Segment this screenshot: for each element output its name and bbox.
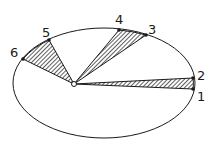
label-6: 6 <box>10 45 18 60</box>
label-2: 2 <box>197 68 205 83</box>
point-1 <box>191 87 195 91</box>
label-3: 3 <box>148 22 156 37</box>
point-2 <box>191 76 195 80</box>
label-4: 4 <box>115 12 123 27</box>
sector-5-6 <box>23 40 74 84</box>
focus-sun <box>72 82 77 87</box>
point-6 <box>21 57 25 61</box>
point-4 <box>117 28 121 32</box>
kepler-diagram: 1 2 3 4 5 6 <box>0 0 214 149</box>
sector-3-4 <box>74 30 146 84</box>
label-5: 5 <box>42 25 50 40</box>
sector-1-2 <box>74 78 193 89</box>
label-1: 1 <box>197 89 205 104</box>
